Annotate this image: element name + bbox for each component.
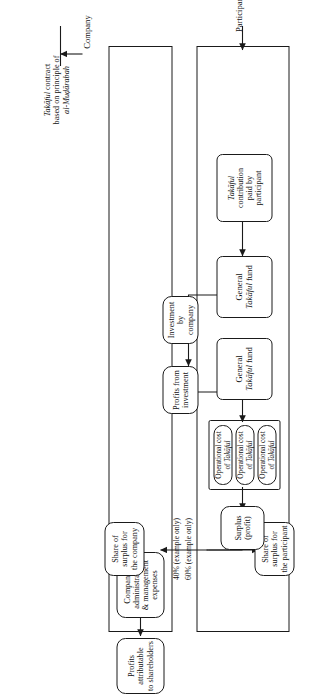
- node-profits-from-investment[interactable]: Profits frominvestment: [163, 366, 199, 414]
- label-participant-share-percent-text: 60% (example only): [184, 518, 193, 580]
- node-general-takaful-fund-upper-label: General Takāful fund: [235, 347, 254, 390]
- node-general-takaful-fund-upper[interactable]: General Takāful fund: [217, 338, 273, 400]
- label-actor-company: Company: [83, 0, 93, 64]
- node-operational-cost-1[interactable]: Operational cost of Takāful: [214, 425, 233, 485]
- label-takaful-contract: Takāful contract based on principle of a…: [43, 30, 71, 150]
- op-cost-3-line2-italic: Takāful: [267, 440, 275, 461]
- fund-upper-line1: General: [234, 355, 244, 382]
- node-takaful-contribution-paid-by-participant[interactable]: Takāful contributionpaid byparticipant: [217, 154, 273, 222]
- fund-lower-line1: General: [234, 273, 244, 300]
- node-takaful-contribution-label: Takāful contributionpaid byparticipant: [226, 168, 263, 208]
- contract-line1-italic: Takāful: [43, 92, 52, 116]
- op-cost-3-line1: Operational cost: [259, 431, 267, 478]
- node-share-surplus-company[interactable]: Share of surplus forthe company: [105, 522, 145, 576]
- node-operational-cost-2-label: Operational cost of Takāful: [237, 431, 253, 478]
- label-company-share-percent-text: 40% (example only): [172, 518, 181, 580]
- contribution-italic: Takāful: [226, 176, 235, 200]
- takaful-mudarabah-diagram: Profits attributableto shareholders Comp…: [21, 0, 300, 662]
- contract-line3-italic: al-Muḍārabah: [61, 66, 70, 114]
- node-general-takaful-fund-lower[interactable]: General Takāful fund: [217, 256, 273, 318]
- node-operational-cost-1-label: Operational cost of Takāful: [215, 431, 231, 478]
- fund-lower-italic: Takāful: [244, 283, 254, 308]
- label-participant-share-percent: 60% (example only): [185, 518, 194, 580]
- node-profits-attributable-shareholders-label: Profits attributableto shareholders: [127, 641, 155, 691]
- op-cost-1-line1: Operational cost: [215, 431, 223, 478]
- node-share-surplus-participant-label: Share of surplus forthe participant: [261, 525, 289, 573]
- fund-upper-italic: Takāful: [244, 365, 254, 390]
- node-operational-cost-2[interactable]: Operational cost of Takāful: [236, 425, 255, 485]
- diagram-canvas: Profits attributableto shareholders Comp…: [21, 0, 300, 662]
- label-actor-participant: Participant: [235, 0, 245, 32]
- node-operational-cost-3-label: Operational cost of Takāful: [259, 431, 275, 478]
- op-cost-2-line2-prefix: of: [245, 462, 253, 470]
- label-actor-company-text: Company: [82, 15, 92, 48]
- node-surplus-profit[interactable]: Surplus(profit): [221, 506, 265, 550]
- label-company-share-percent: 40% (example only): [173, 518, 182, 580]
- op-cost-2-line1: Operational cost: [237, 431, 245, 478]
- node-general-takaful-fund-lower-label: General Takāful fund: [235, 265, 254, 308]
- op-cost-1-line2-prefix: of: [223, 462, 231, 470]
- contribution-rest: contributionpaid byparticipant: [235, 168, 262, 208]
- node-surplus-profit-label: Surplus(profit): [233, 515, 251, 540]
- contract-line1-rest: contract: [43, 64, 52, 92]
- node-profits-attributable-shareholders[interactable]: Profits attributableto shareholders: [117, 638, 165, 694]
- op-cost-2-line2-italic: Takāful: [245, 440, 253, 461]
- op-cost-1-line2-italic: Takāful: [223, 440, 231, 461]
- node-investment-by-company-label: Investment bycompany: [167, 299, 195, 341]
- fund-lower-tail: fund: [244, 265, 254, 283]
- label-actor-participant-text: Participant: [234, 0, 244, 32]
- node-investment-by-company[interactable]: Investment bycompany: [163, 296, 199, 344]
- op-cost-3-line2-prefix: of: [267, 462, 275, 470]
- fund-upper-tail: fund: [244, 347, 254, 365]
- node-share-surplus-company-label: Share of surplus forthe company: [111, 525, 139, 573]
- contract-line2: based on principle of: [52, 56, 61, 125]
- node-profits-from-investment-label: Profits frominvestment: [171, 370, 189, 410]
- node-operational-cost-3[interactable]: Operational cost of Takāful: [258, 425, 277, 485]
